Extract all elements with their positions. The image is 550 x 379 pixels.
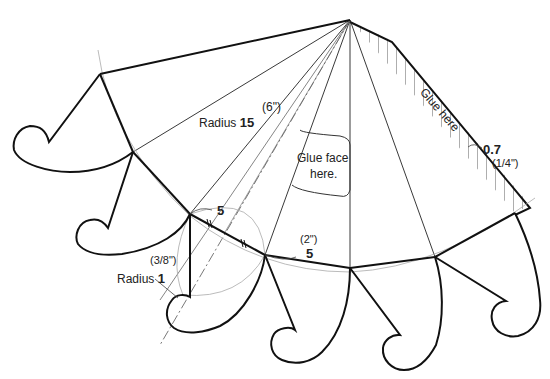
- glue-width-value: 0.7: [483, 143, 501, 156]
- radius-large-prefix: Radius: [199, 116, 236, 130]
- segment-right-inch: (2"): [300, 234, 317, 245]
- radius-large-label: Radius 15: [199, 116, 254, 129]
- radius-small-inch: (3/8"): [150, 255, 177, 266]
- radius-large-value: 15: [240, 115, 254, 130]
- segment-right-value: 5: [306, 247, 313, 260]
- glue-face-label: Glue face: [297, 152, 348, 164]
- radius-large-inch-label: (6"): [262, 101, 281, 113]
- cone-pattern-diagram: [0, 0, 550, 379]
- radius-small-label: Radius 1: [117, 272, 165, 285]
- glue-width-inch: (1/4"): [492, 158, 519, 169]
- glue-face-label-line2: here.: [310, 168, 337, 180]
- radius-small-value: 1: [158, 271, 165, 286]
- segment-top-value: 5: [217, 204, 224, 217]
- radius-small-prefix: Radius: [117, 272, 154, 286]
- outer-outline: [100, 20, 515, 268]
